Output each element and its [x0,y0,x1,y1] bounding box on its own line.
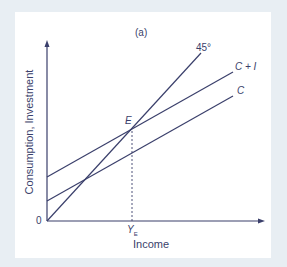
equilibrium-income-subscript: E [134,231,138,237]
equilibrium-income-symbol: Y [127,224,134,235]
x-axis-label: Income [133,238,169,250]
line-c-plus-i [47,72,233,177]
panel-label: (a) [135,27,147,38]
label-45-degree: 45° [196,42,211,53]
label-c: C [237,85,244,96]
equilibrium-income-label: YE [127,224,138,237]
label-c-plus-i: C + I [235,61,256,72]
y-axis-label: Consumption, Investment [23,66,35,198]
x-axis-arrow-icon [258,219,265,224]
income-determination-diagram [0,0,287,267]
line-c [47,96,233,201]
y-axis-arrow-icon [45,40,50,47]
equilibrium-point-label: E [125,115,132,126]
origin-label: 0 [36,215,42,226]
line-45-degree [47,53,201,221]
